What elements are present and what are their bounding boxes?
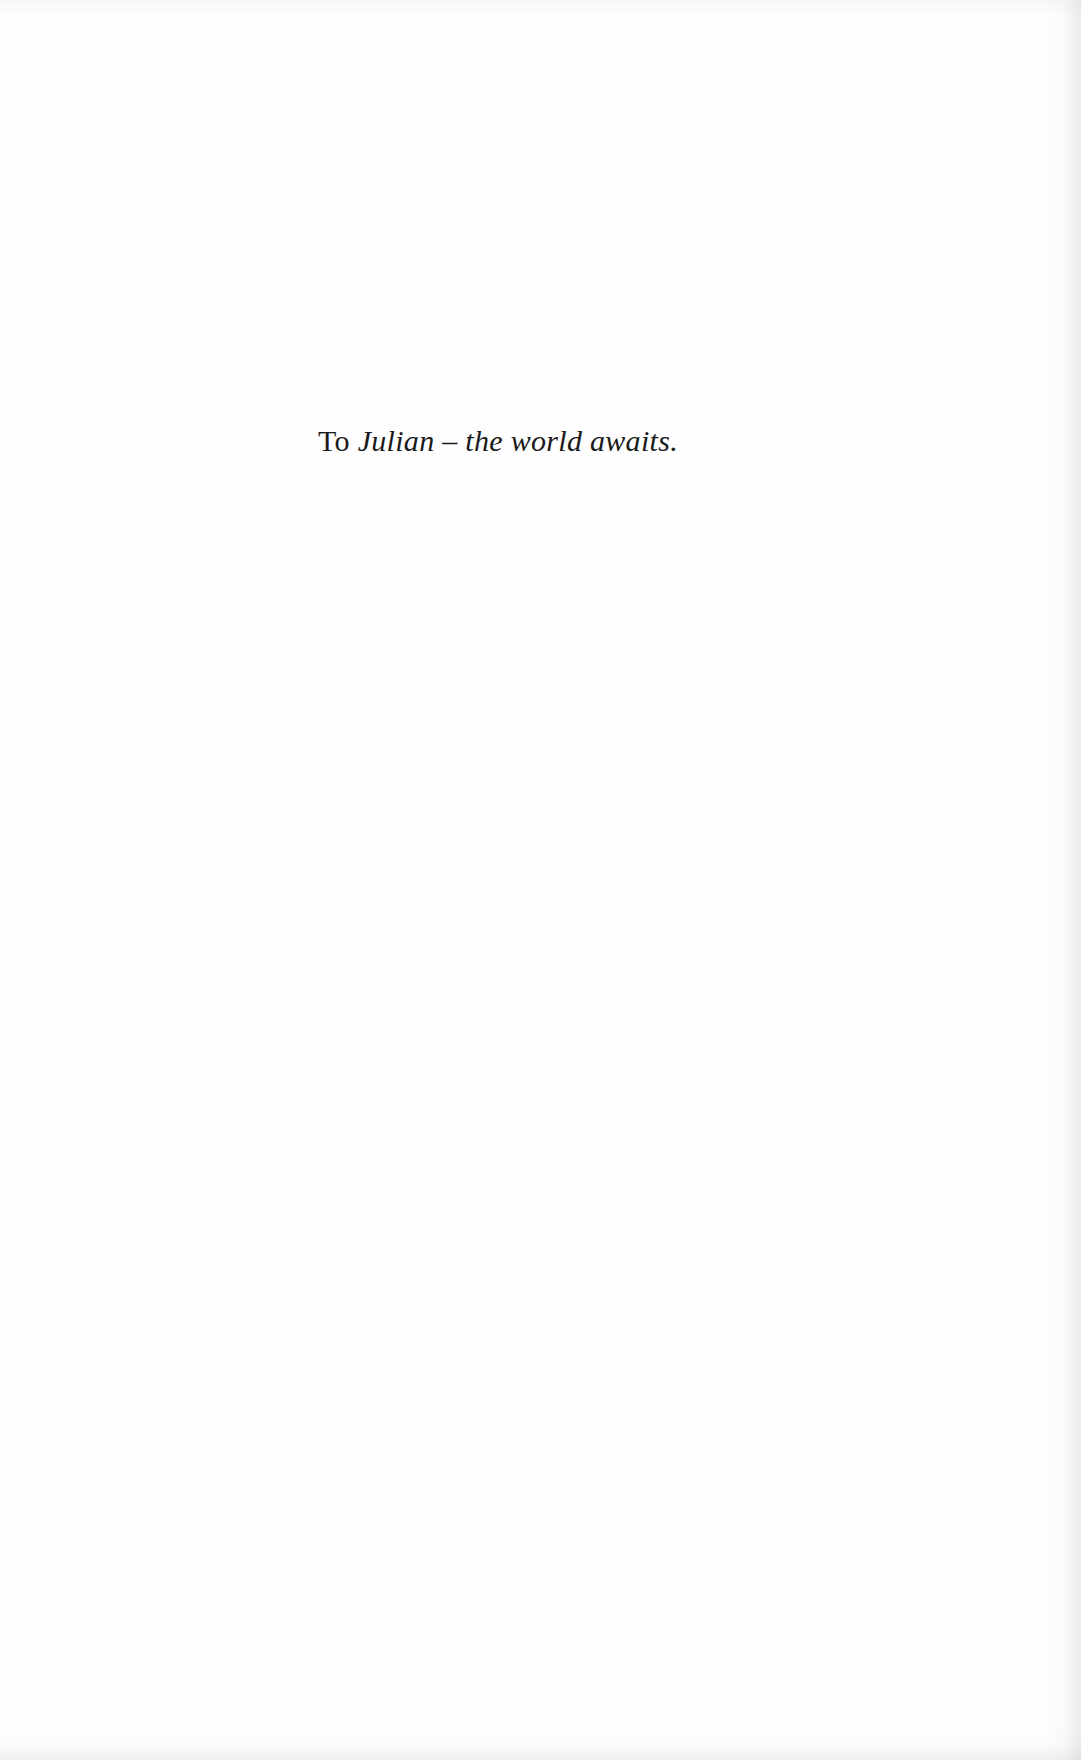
- dedication-text: To Julian – the world awaits.: [318, 424, 678, 458]
- book-page: To Julian – the world awaits.: [0, 0, 1081, 1760]
- dedication-lead: To: [318, 424, 350, 457]
- dedication-body: Julian – the world awaits.: [358, 424, 678, 457]
